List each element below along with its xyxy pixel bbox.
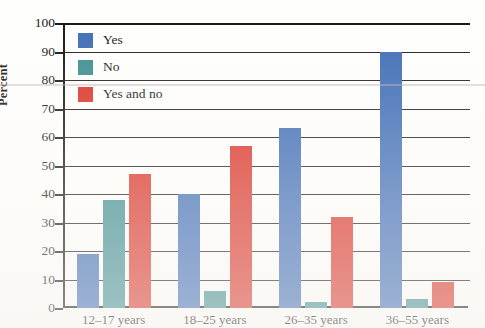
bar [406, 299, 428, 308]
y-tick-mark-100 [55, 23, 63, 25]
bar-group [164, 23, 265, 308]
bar [178, 194, 200, 308]
y-tick-mark-90 [55, 52, 63, 54]
bar-group [266, 23, 367, 308]
legend-item: Yes and no [78, 86, 162, 102]
bar [204, 291, 226, 308]
bar [230, 146, 252, 308]
y-axis-title: Percent [0, 64, 11, 106]
y-tick-mark-10 [55, 280, 63, 282]
legend-swatch-icon [78, 33, 93, 48]
x-axis-label: 18–25 years [183, 312, 246, 328]
y-tick-mark-60 [55, 137, 63, 139]
bar [103, 200, 125, 308]
legend-label: No [103, 60, 120, 74]
y-tick-label-60: 60 [21, 130, 55, 144]
bar [279, 128, 301, 308]
y-tick-mark-0 [55, 308, 63, 310]
bar-chart: Percent 0102030405060708090100 12–17 yea… [0, 0, 485, 328]
y-tick-mark-40 [55, 194, 63, 196]
legend-label: Yes [103, 33, 123, 47]
legend-label: Yes and no [103, 87, 162, 101]
x-axis-label: 26–35 years [285, 312, 348, 328]
legend: YesNoYes and no [78, 32, 162, 102]
bar [305, 302, 327, 308]
bar [432, 282, 454, 308]
y-tick-label-100: 100 [21, 16, 55, 30]
x-axis-label: 36–55 years [386, 312, 449, 328]
y-tick-label-20: 20 [21, 244, 55, 258]
y-tick-mark-80 [55, 80, 63, 82]
y-tick-label-80: 80 [21, 73, 55, 87]
y-tick-label-30: 30 [21, 216, 55, 230]
y-tick-mark-20 [55, 251, 63, 253]
y-tick-label-10: 10 [21, 273, 55, 287]
x-axis-label: 12–17 years [82, 312, 145, 328]
legend-swatch-icon [78, 87, 93, 102]
y-tick-label-0: 0 [21, 301, 55, 315]
bar [331, 217, 353, 308]
legend-swatch-icon [78, 60, 93, 75]
y-tick-mark-50 [55, 166, 63, 168]
y-tick-label-50: 50 [21, 159, 55, 173]
legend-item: No [78, 59, 162, 75]
y-tick-mark-30 [55, 223, 63, 225]
legend-item: Yes [78, 32, 162, 48]
bar-group [367, 23, 468, 308]
bar [77, 254, 99, 308]
y-tick-mark-70 [55, 109, 63, 111]
y-tick-label-90: 90 [21, 45, 55, 59]
y-tick-label-40: 40 [21, 187, 55, 201]
bar [380, 52, 402, 309]
bar [129, 174, 151, 308]
y-tick-label-70: 70 [21, 102, 55, 116]
